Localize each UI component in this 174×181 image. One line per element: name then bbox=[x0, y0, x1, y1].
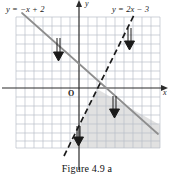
x-axis-label: x bbox=[163, 88, 167, 97]
origin-label: O bbox=[68, 89, 74, 98]
line-equation-label-dashed: y = 2x − 3 bbox=[112, 4, 149, 14]
line-equation-label-solid: y = −x + 2 bbox=[6, 4, 45, 14]
coordinate-plot bbox=[0, 0, 174, 181]
figure-caption: Figure 4.9 a bbox=[0, 163, 174, 174]
y-axis-label: y bbox=[85, 0, 89, 8]
figure-container: y = −x + 2 y = 2x − 3 y x O Figure 4.9 a bbox=[0, 0, 174, 181]
